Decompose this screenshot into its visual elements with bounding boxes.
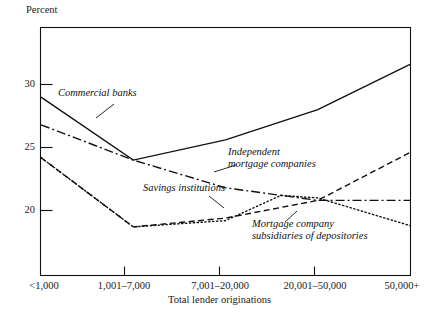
annotation-commercial-banks: Commercial banks <box>58 87 137 99</box>
annotation-line-1: Independent <box>228 146 316 158</box>
annotation-line-1: Mortgage company <box>252 218 368 230</box>
x-tick-label-3: 20,001–50,000 <box>284 280 347 291</box>
x-axis-title: Total lender originations <box>168 294 271 305</box>
x-axis-ticks <box>125 267 315 276</box>
annotation-savings-institutions: Savings institutions <box>143 182 225 194</box>
series-line-savings-institutions <box>41 153 410 227</box>
y-axis-title: Percent <box>26 4 58 15</box>
y-tick-label-20: 20 <box>13 204 35 215</box>
y-tick-label-30: 30 <box>13 78 35 89</box>
chart-figure <box>0 0 433 317</box>
y-tick-label-25: 25 <box>13 141 35 152</box>
series-line-independent-mortgage-companies <box>41 125 410 201</box>
annotation-line-2: subsidiaries of depositories <box>252 230 368 242</box>
annotation-line-2: mortgage companies <box>228 158 316 170</box>
x-tick-label-1: 1,001–7,000 <box>98 280 151 291</box>
x-tick-label-0: <1,000 <box>29 280 59 291</box>
annotation-mortgage-company-subsidiaries: Mortgage company subsidiaries of deposit… <box>252 218 368 242</box>
x-tick-label-4: 50,000+ <box>385 280 420 291</box>
x-tick-label-2: 7,001–20,000 <box>191 280 249 291</box>
annotation-independent-mortgage-companies: Independent mortgage companies <box>228 146 316 170</box>
